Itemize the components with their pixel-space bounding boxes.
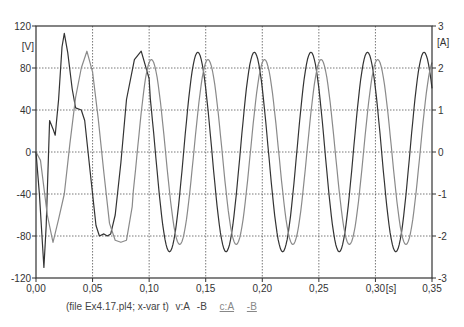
y-left-tick-label: 40	[20, 105, 32, 116]
x-tick-label: 0,20	[253, 283, 273, 294]
y-left-tick-label: -40	[17, 189, 32, 200]
y-right-tick-label: -1	[438, 189, 447, 200]
x-tick-label: 0,05	[83, 283, 103, 294]
x-tick-label: 0,15	[196, 283, 216, 294]
y-left-tick-label: -80	[17, 231, 32, 242]
y-left-tick-label: -120	[11, 273, 31, 284]
legend-current-b: -B	[241, 301, 271, 312]
legend-voltage-a: v:A	[176, 301, 190, 312]
waveform-chart: 12080400-40-80-1203210-1-2-30,000,050,10…	[0, 0, 464, 327]
y-right-tick-label: 2	[438, 63, 444, 74]
x-tick-label: 0,25	[309, 283, 329, 294]
y-right-tick-label: -3	[438, 273, 447, 284]
y-right-tick-label: 1	[438, 105, 444, 116]
right-axis-unit: [A]	[437, 37, 449, 48]
plot-curves	[36, 33, 432, 267]
y-right-tick-label: -2	[438, 231, 447, 242]
x-axis-unit: [s]	[386, 283, 397, 294]
x-tick-label: 0,35	[422, 283, 442, 294]
legend-current-a: c:A	[220, 301, 234, 312]
legend-voltage-b: -B	[197, 301, 207, 312]
y-left-tick-label: 80	[20, 63, 32, 74]
legend-file-info: (file Ex4.17.pl4; x-var t)	[66, 301, 169, 312]
y-right-tick-label: 3	[438, 21, 444, 32]
legend: (file Ex4.17.pl4; x-var t) v:A -B c:A -B	[66, 301, 275, 312]
x-tick-label: 0,00	[26, 283, 46, 294]
y-right-tick-label: 0	[438, 147, 444, 158]
x-tick-label: 0,30	[366, 283, 386, 294]
y-left-tick-label: 0	[25, 147, 31, 158]
y-left-tick-label: 120	[14, 21, 31, 32]
voltage-curve	[36, 33, 432, 267]
left-axis-unit: [V]	[22, 41, 34, 52]
x-tick-label: 0,10	[139, 283, 159, 294]
